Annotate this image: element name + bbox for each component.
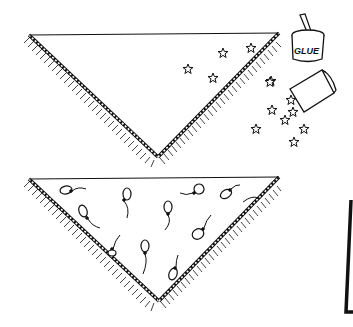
- star-icon: [288, 107, 298, 117]
- spilled-star-box: [290, 70, 336, 112]
- illustration-canvas: GLUE: [0, 0, 353, 327]
- star-icon: [251, 124, 261, 134]
- balloon-icon: [190, 215, 211, 241]
- bottom-scarf: [24, 177, 281, 311]
- balloon-icon: [59, 185, 86, 195]
- star-icon: [267, 105, 277, 115]
- balloon-icon: [164, 201, 172, 230]
- top-scarf: [24, 33, 281, 167]
- star-icon: [208, 73, 218, 83]
- balloon-icon: [167, 255, 179, 281]
- star-icon: [289, 137, 299, 147]
- balloon-icon: [180, 183, 205, 196]
- balloon-icon: [108, 235, 120, 256]
- bottom-scarf-fringe-left: [24, 181, 154, 311]
- balloon-icon: [141, 240, 149, 274]
- top-scarf-fringe-right: [160, 42, 281, 164]
- right-edge-frame: [346, 200, 353, 312]
- star-icon: [218, 48, 228, 58]
- star-icon: [280, 115, 290, 125]
- balloon-icon: [219, 185, 240, 201]
- star-icon: [246, 43, 256, 53]
- top-scarf-fringe-left: [24, 37, 154, 167]
- balloon-icon: [77, 204, 100, 228]
- star-icon: [299, 124, 309, 134]
- glue-jar: GLUE: [292, 14, 324, 62]
- bottom-scarf-fringe-right: [161, 186, 281, 308]
- balloon-icon: [123, 188, 131, 218]
- glue-label: GLUE: [294, 46, 320, 56]
- star-icon: [183, 64, 193, 74]
